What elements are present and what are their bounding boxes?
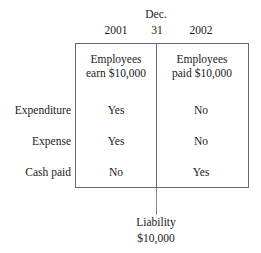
value-cash-paid-2002: Yes xyxy=(193,167,210,179)
period-divider-line xyxy=(156,43,157,188)
event-cell-2002-line1: Employees xyxy=(172,52,232,66)
event-cell-2001-line1: Employees xyxy=(86,52,146,66)
value-expenditure-2001: Yes xyxy=(108,105,125,117)
row-label-expenditure: Expenditure xyxy=(15,105,71,117)
header-year-left-label: 2001 xyxy=(105,25,128,37)
value-expense-2001: Yes xyxy=(108,136,125,148)
event-cell-2002: Employees paid $10,000 xyxy=(172,52,232,80)
row-label-expense: Expense xyxy=(32,136,71,148)
value-expense-2002: No xyxy=(194,136,208,148)
row-label-cash-paid: Cash paid xyxy=(25,167,71,179)
callout-leader-line xyxy=(156,188,157,215)
event-cell-2001: Employees earn $10,000 xyxy=(86,52,146,80)
callout-amount: $10,000 xyxy=(137,233,174,245)
header-year-right-label: 2002 xyxy=(190,25,213,37)
value-expenditure-2002: No xyxy=(194,105,208,117)
value-cash-paid-2001: No xyxy=(109,167,123,179)
header-month-label: Dec. xyxy=(145,9,166,21)
event-cell-2001-line2: earn $10,000 xyxy=(86,66,146,80)
event-cell-2002-line2: paid $10,000 xyxy=(172,66,232,80)
accounting-timeline-diagram: Dec. 2001 31 2002 Employees earn $10,000… xyxy=(0,0,261,253)
header-day-label: 31 xyxy=(151,25,163,37)
callout-title: Liability xyxy=(136,217,176,229)
